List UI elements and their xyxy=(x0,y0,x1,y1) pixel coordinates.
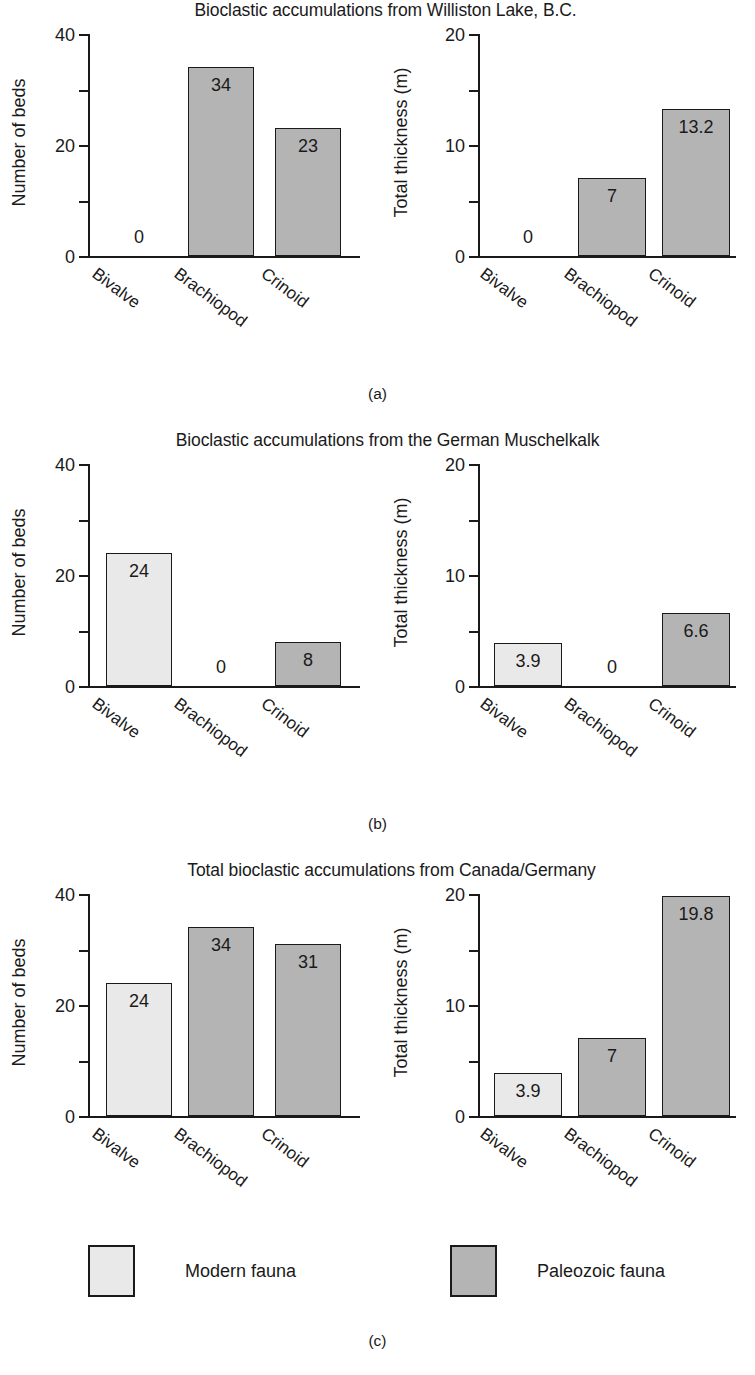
x-axis-label-bivalve: Bivalve xyxy=(476,1124,532,1173)
y-axis-tick xyxy=(469,1116,478,1118)
y-axis-tick xyxy=(469,520,478,522)
bar-group: 3.9719.8 xyxy=(478,894,736,1116)
bar-brachiopod: 7 xyxy=(578,178,646,256)
y-axis-tick xyxy=(469,894,478,896)
y-axis-tick xyxy=(79,256,88,258)
x-axis-labels: BivalveBrachiopodCrinoid xyxy=(88,688,360,758)
bar-slot: 19.8 xyxy=(662,894,730,1116)
x-axis-label-bivalve: Bivalve xyxy=(88,1124,144,1173)
y-axis-tick-label: 20 xyxy=(55,137,75,155)
bar-value-label: 23 xyxy=(276,137,340,155)
bar-slot: 0 xyxy=(188,464,254,686)
bar-crinoid: 13.2 xyxy=(662,109,730,256)
y-axis-tick xyxy=(79,1116,88,1118)
y-axis-tick-label: 20 xyxy=(445,456,465,474)
bar-crinoid: 23 xyxy=(275,128,341,256)
y-axis-label: Total thickness (m) xyxy=(388,26,414,258)
bar-slot: 7 xyxy=(578,894,646,1116)
chart-b-left: Number of beds020402408BivalveBrachiopod… xyxy=(0,456,380,756)
bar-value-label: 6.6 xyxy=(663,622,729,640)
x-axis-label-crinoid: Crinoid xyxy=(257,264,312,312)
y-axis-tick xyxy=(469,201,478,203)
bar-crinoid: 8 xyxy=(275,642,341,686)
bar-group: 0713.2 xyxy=(478,34,736,256)
bar-slot: 24 xyxy=(106,894,172,1116)
panel-label-c: (c) xyxy=(0,1332,755,1350)
y-axis-tick-label: 0 xyxy=(65,678,75,696)
bar-value-label: 0 xyxy=(578,658,646,676)
y-axis-label-text: Number of beds xyxy=(9,508,30,636)
chart-c-left: Number of beds02040243431BivalveBrachiop… xyxy=(0,886,380,1186)
bar-value-label: 0 xyxy=(106,228,172,246)
y-axis-label-text: Number of beds xyxy=(9,938,30,1066)
y-axis-label: Total thickness (m) xyxy=(388,456,414,688)
bar-bivalve: 24 xyxy=(106,553,172,686)
bar-slot: 24 xyxy=(106,464,172,686)
bar-brachiopod: 34 xyxy=(188,927,254,1116)
x-axis-labels: BivalveBrachiopodCrinoid xyxy=(478,688,736,758)
x-axis-labels: BivalveBrachiopodCrinoid xyxy=(478,1118,736,1188)
y-axis-tick-label: 0 xyxy=(65,248,75,266)
legend-item-paleozoic-fauna: Paleozoic fauna xyxy=(450,1245,665,1297)
bar-value-label: 7 xyxy=(579,1047,645,1065)
y-axis-tick xyxy=(469,256,478,258)
y-axis-tick xyxy=(79,631,88,633)
x-axis-label-brachiopod: Brachiopod xyxy=(560,1124,641,1192)
chart-c-right: Total thickness (m)010203.9719.8BivalveB… xyxy=(378,886,755,1186)
plot-area: 02040243431BivalveBrachiopodCrinoid xyxy=(88,894,360,1118)
y-axis-label: Number of beds xyxy=(6,886,32,1118)
y-axis-tick-label: 10 xyxy=(445,997,465,1015)
bar-slot: 0 xyxy=(494,34,562,256)
y-axis-tick-label: 10 xyxy=(445,137,465,155)
bar-value-label: 19.8 xyxy=(663,905,729,923)
bar-brachiopod: 34 xyxy=(188,67,254,256)
y-axis-label-text: Total thickness (m) xyxy=(391,497,412,647)
bar-bivalve: 3.9 xyxy=(494,643,562,686)
y-axis-tick xyxy=(469,34,478,36)
y-axis-label-text: Number of beds xyxy=(9,78,30,206)
y-axis-tick-label: 0 xyxy=(455,678,465,696)
y-axis-tick-label: 20 xyxy=(445,26,465,44)
legend-swatch-paleozoic xyxy=(450,1245,497,1297)
bar-slot: 23 xyxy=(275,34,341,256)
y-axis-tick xyxy=(79,90,88,92)
y-axis-tick xyxy=(469,950,478,952)
y-axis-tick xyxy=(469,90,478,92)
y-axis-tick xyxy=(79,145,88,147)
x-axis-label-bivalve: Bivalve xyxy=(476,694,532,743)
panel-c: Total bioclastic accumulations from Cana… xyxy=(0,860,755,1210)
figure-legend: Modern fauna Paleozoic fauna xyxy=(0,1245,755,1325)
y-axis-tick xyxy=(469,1005,478,1007)
plot-area: 010203.906.6BivalveBrachiopodCrinoid xyxy=(478,464,736,688)
y-axis-tick xyxy=(79,520,88,522)
x-axis-label-bivalve: Bivalve xyxy=(476,264,532,313)
bar-slot: 34 xyxy=(188,34,254,256)
bar-group: 243431 xyxy=(88,894,360,1116)
bar-slot: 13.2 xyxy=(662,34,730,256)
chart-b-right: Total thickness (m)010203.906.6BivalveBr… xyxy=(378,456,755,756)
x-axis-label-brachiopod: Brachiopod xyxy=(170,1124,251,1192)
y-axis-tick xyxy=(469,631,478,633)
y-axis-tick xyxy=(79,1061,88,1063)
bar-value-label: 7 xyxy=(579,187,645,205)
bar-value-label: 34 xyxy=(189,936,253,954)
panel-a: Bioclastic accumulations from Williston … xyxy=(0,0,755,420)
chart-a-right: Total thickness (m)010200713.2BivalveBra… xyxy=(378,26,755,326)
y-axis-tick xyxy=(79,575,88,577)
y-axis-label: Total thickness (m) xyxy=(388,886,414,1118)
bar-slot: 34 xyxy=(188,894,254,1116)
bar-bivalve: 3.9 xyxy=(494,1073,562,1116)
y-axis-tick-label: 0 xyxy=(455,1108,465,1126)
bar-slot: 3.9 xyxy=(494,464,562,686)
bar-value-label: 0 xyxy=(188,658,254,676)
bar-value-label: 24 xyxy=(107,562,171,580)
y-axis-tick-label: 0 xyxy=(455,248,465,266)
y-axis-tick xyxy=(469,575,478,577)
y-axis-tick xyxy=(79,950,88,952)
panel-c-title: Total bioclastic accumulations from Cana… xyxy=(0,860,755,881)
bar-slot: 6.6 xyxy=(662,464,730,686)
panel-label-b: (b) xyxy=(0,815,755,833)
bar-slot: 0 xyxy=(106,34,172,256)
plot-area: 0204003423BivalveBrachiopodCrinoid xyxy=(88,34,360,258)
y-axis-tick-label: 10 xyxy=(445,567,465,585)
